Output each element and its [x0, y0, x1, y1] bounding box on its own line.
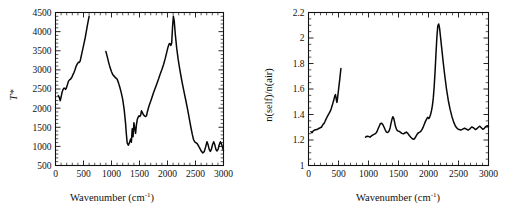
- left-xtick-label: 1000: [102, 169, 121, 179]
- left-axis-ticks: [56, 13, 224, 166]
- left-xtick-label: 2000: [158, 169, 177, 179]
- right-x-axis-title: Wavenumber (cm-1): [356, 191, 441, 204]
- left-data-lines: [58, 16, 223, 153]
- right-ytick-label: 2: [300, 33, 305, 43]
- right-x-axis-title-suffix: ): [437, 192, 441, 204]
- right-ytick-label: 2.2: [293, 8, 305, 18]
- right-data-line-segment-low: [311, 69, 341, 133]
- left-data-line-segment-high: [106, 16, 224, 153]
- right-data-lines: [311, 24, 489, 139]
- left-data-line-segment-low: [58, 16, 89, 100]
- right-ytick-label: 1.4: [293, 110, 305, 120]
- right-xtick-label: 1000: [359, 169, 378, 179]
- right-xtick-label: 2500: [449, 169, 468, 179]
- right-xtick-label: 2000: [419, 169, 438, 179]
- chart-panel-right: 05001000150020002500300011.21.41.61.822.…: [258, 0, 516, 209]
- right-y-axis-title: n(self)/n(air): [263, 68, 275, 122]
- left-xtick-label: 500: [76, 169, 91, 179]
- right-xtick-label: 0: [306, 169, 311, 179]
- right-x-axis-title-text: Wavenumber (cm-1): [356, 191, 441, 204]
- right-ytick-label: 1: [300, 161, 305, 171]
- right-data-line-segment-high: [366, 24, 489, 139]
- right-plot-frame: [309, 13, 489, 166]
- left-ytick-label: 4000: [33, 27, 52, 37]
- left-ytick-label: 500: [37, 161, 52, 171]
- figure-container: 0500100015002000250030005001000150020002…: [0, 0, 516, 209]
- left-ytick-label: 2500: [33, 84, 52, 94]
- right-ytick-label: 1.8: [293, 59, 305, 69]
- right-ytick-label: 1.2: [293, 135, 305, 145]
- left-x-axis-title-suffix: ): [151, 192, 155, 204]
- chart-panel-left: 0500100015002000250030005001000150020002…: [0, 0, 258, 209]
- left-ytick-label: 3000: [33, 65, 52, 75]
- right-xtick-label: 1500: [389, 169, 408, 179]
- right-plot-svg: 05001000150020002500300011.21.41.61.822.…: [258, 0, 516, 209]
- left-x-axis-title-main: Wavenumber (cm: [70, 192, 145, 204]
- left-ytick-label: 1000: [33, 142, 52, 152]
- left-ytick-label: 4500: [33, 8, 52, 18]
- right-y-axis-title-text: n(self)/n(air): [263, 68, 275, 122]
- right-ytick-label: 1.6: [293, 84, 305, 94]
- right-xtick-label: 3000: [479, 169, 498, 179]
- left-xtick-label: 2500: [186, 169, 205, 179]
- right-x-axis-title-main: Wavenumber (cm: [356, 192, 431, 204]
- left-y-axis-title-text: T*: [8, 89, 19, 101]
- left-ytick-label: 2000: [33, 104, 52, 114]
- left-x-axis-title-text: Wavenumber (cm-1): [70, 191, 155, 204]
- right-xtick-label: 500: [331, 169, 346, 179]
- left-xtick-label: 1500: [130, 169, 149, 179]
- left-plot-frame: [56, 13, 224, 166]
- left-ytick-label: 1500: [33, 123, 52, 133]
- right-tick-labels: 05001000150020002500300011.21.41.61.822.…: [293, 8, 499, 179]
- left-x-axis-title: Wavenumber (cm-1): [70, 191, 155, 204]
- left-xtick-label: 0: [53, 169, 58, 179]
- left-plot-svg: 0500100015002000250030005001000150020002…: [0, 0, 258, 209]
- left-ytick-label: 3500: [33, 46, 52, 56]
- right-axis-ticks: [309, 13, 489, 166]
- left-xtick-label: 3000: [214, 169, 233, 179]
- left-y-axis-title: T*: [8, 89, 19, 101]
